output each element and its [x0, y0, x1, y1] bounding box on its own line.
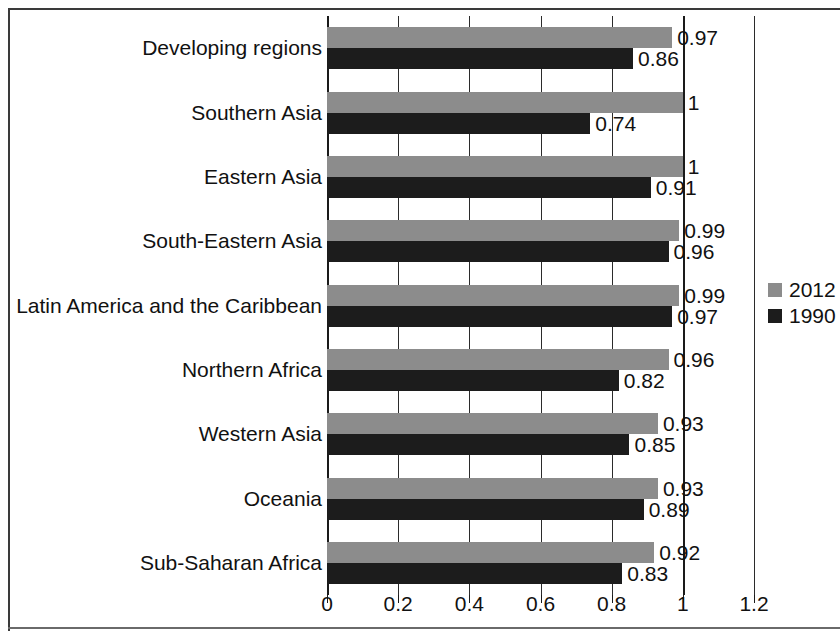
- legend-swatch-icon: [768, 309, 782, 323]
- bar-1990: [327, 241, 669, 262]
- bar-value-label-1990: 0.89: [649, 499, 690, 520]
- chart-legend: 20121990: [768, 277, 840, 329]
- legend-label: 1990: [789, 304, 836, 328]
- bar-value-label-1990: 0.96: [674, 241, 715, 262]
- x-tick-label: 0.4: [455, 592, 484, 616]
- bar-2012: [327, 349, 669, 370]
- legend-item: 2012: [768, 277, 840, 303]
- x-tick-label: 1.2: [739, 592, 768, 616]
- bar-2012: [327, 220, 679, 241]
- bar-value-label-1990: 0.82: [624, 370, 665, 391]
- legend-label: 2012: [789, 278, 836, 302]
- x-tick-label: 1: [677, 592, 689, 616]
- bar-1990: [327, 370, 619, 391]
- category-label: Latin America and the Caribbean: [16, 295, 322, 317]
- bar-2012: [327, 413, 658, 434]
- category-label: Eastern Asia: [204, 166, 322, 188]
- x-tick-label: 0: [321, 592, 333, 616]
- bar-value-label-1990: 0.86: [638, 48, 679, 69]
- category-label: Northern Africa: [182, 359, 322, 381]
- bar-value-label-2012: 0.97: [677, 27, 718, 48]
- chart-figure: Developing regionsSouthern AsiaEastern A…: [0, 0, 840, 631]
- bar-2012: [327, 478, 658, 499]
- bar-value-label-2012: 0.99: [684, 220, 725, 241]
- category-label: Western Asia: [199, 423, 322, 445]
- bar-group: 10.74: [327, 92, 754, 134]
- bar-2012: [327, 27, 672, 48]
- figure-border-bottom: [8, 627, 840, 629]
- bar-value-label-2012: 0.96: [674, 349, 715, 370]
- bar-value-label-1990: 0.97: [677, 306, 718, 327]
- bar-value-label-2012: 0.99: [684, 285, 725, 306]
- legend-swatch-icon: [768, 283, 782, 297]
- bar-group: 0.960.82: [327, 349, 754, 391]
- bar-value-label-1990: 0.74: [595, 113, 636, 134]
- x-tick-label: 0.6: [526, 592, 555, 616]
- gridline-1.2: [754, 16, 755, 595]
- category-label: Sub-Saharan Africa: [140, 552, 322, 574]
- bar-group: 0.930.85: [327, 413, 754, 455]
- bar-group: 0.990.97: [327, 285, 754, 327]
- bar-value-label-2012: 0.93: [663, 413, 704, 434]
- bar-value-label-2012: 1: [688, 92, 700, 113]
- bar-1990: [327, 563, 622, 584]
- category-axis-labels: Developing regionsSouthern AsiaEastern A…: [0, 16, 322, 595]
- bar-1990: [327, 48, 633, 69]
- bar-value-label-2012: 1: [688, 156, 700, 177]
- bar-group: 0.930.89: [327, 478, 754, 520]
- bar-2012: [327, 156, 683, 177]
- bar-value-label-2012: 0.92: [659, 542, 700, 563]
- bar-1990: [327, 113, 590, 134]
- plot-area: 0.970.8610.7410.910.990.960.990.970.960.…: [327, 16, 754, 595]
- bar-2012: [327, 285, 679, 306]
- bar-2012: [327, 92, 683, 113]
- bar-group: 0.970.86: [327, 27, 754, 69]
- bar-value-label-1990: 0.91: [656, 177, 697, 198]
- bar-2012: [327, 542, 654, 563]
- bar-1990: [327, 434, 629, 455]
- bar-value-label-1990: 0.83: [627, 563, 668, 584]
- legend-item: 1990: [768, 303, 840, 329]
- bar-1990: [327, 499, 644, 520]
- bar-value-label-2012: 0.93: [663, 478, 704, 499]
- bar-1990: [327, 177, 651, 198]
- figure-border-top: [8, 8, 840, 10]
- bar-group: 0.990.96: [327, 220, 754, 262]
- bar-group: 0.920.83: [327, 542, 754, 584]
- bar-value-label-1990: 0.85: [634, 434, 675, 455]
- x-tick-label: 0.2: [384, 592, 413, 616]
- x-tick-label: 0.8: [597, 592, 626, 616]
- category-label: Oceania: [244, 488, 322, 510]
- category-label: Developing regions: [142, 37, 322, 59]
- category-label: South-Eastern Asia: [142, 230, 322, 252]
- bar-group: 10.91: [327, 156, 754, 198]
- bar-1990: [327, 306, 672, 327]
- category-label: Southern Asia: [191, 102, 322, 124]
